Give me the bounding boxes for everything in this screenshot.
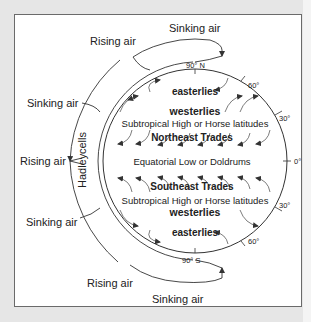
label-sinking-air-bottom: Sinking air (152, 293, 204, 305)
label-90n: 90° N (186, 61, 205, 70)
label-90s: 90° S (182, 256, 200, 265)
label-cells: cells (76, 131, 88, 154)
label-sinking-air-top: Sinking air (169, 22, 221, 34)
label-rising-air-left: Rising air (20, 155, 66, 167)
label-60n: 60° (248, 81, 259, 90)
label-60s: 60° (248, 237, 259, 246)
zone-easterlies-south: easterlies (172, 227, 219, 238)
zone-horse-north: Subtropical High or Horse latitudes (122, 118, 269, 129)
label-30s: 30° (279, 201, 290, 210)
label-rising-air-top: Rising air (90, 35, 136, 47)
label-equator: 0° (294, 157, 301, 166)
label-sinking-air-lower-left: Sinking air (26, 216, 78, 228)
zone-horse-south: Subtropical High or Horse latitudes (122, 195, 269, 206)
label-rising-air-bottom: Rising air (87, 277, 133, 289)
circulation-diagram: Rising air Sinking air Sinking air Risin… (0, 0, 311, 322)
zone-ne-trades: Northeast Trades (151, 132, 233, 143)
zone-se-trades: Southeast Trades (150, 181, 234, 192)
label-sinking-air-upper-left: Sinking air (27, 97, 79, 109)
zone-easterlies-north: easterlies (172, 86, 219, 97)
zone-westerlies-south: westerlies (169, 206, 221, 218)
label-30n: 30° (279, 114, 290, 123)
zone-doldrums: Equatorial Low or Doldrums (133, 156, 250, 167)
label-hadley: Hadley (76, 153, 88, 188)
zone-westerlies-north: westerlies (169, 105, 221, 117)
